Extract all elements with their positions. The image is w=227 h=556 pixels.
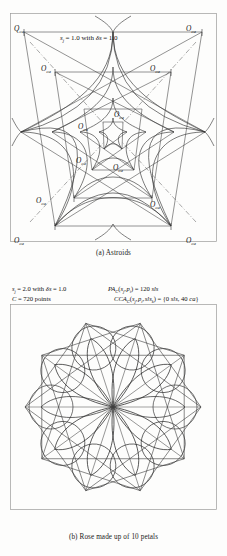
- figure-a-caption: (a) Astroids: [0, 249, 227, 257]
- figure-b-rose: (b) Rose made up of 10 petals: [0, 282, 227, 552]
- astroid-diagram: [0, 10, 227, 247]
- astroid-level-1-arcs: [21, 32, 205, 226]
- figure-b-caption: (b) Rose made up of 10 petals: [0, 533, 227, 541]
- rose-diagram: [0, 282, 227, 532]
- rose-petal-group: [25, 312, 201, 502]
- astroid-chord-lines: [21, 32, 205, 226]
- figure-page: sj=1.0 with δs=1.0 Qca Oca Oca Oca Oca O…: [0, 0, 227, 556]
- figure-a-top-annotation: sj=1.0 with δs=1.0: [60, 34, 117, 42]
- figure-a-astroids: sj=1.0 with δs=1.0 Qca Oca Oca Oca Oca O…: [0, 10, 227, 260]
- astroid-level-1: [21, 32, 205, 226]
- rose-radial-spokes: [25, 323, 201, 490]
- figure-a-frame: [11, 14, 217, 242]
- astroid-curve-group: [12, 16, 214, 240]
